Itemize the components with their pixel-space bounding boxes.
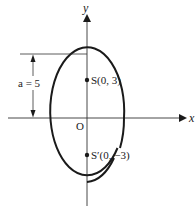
x-axis-label: x [188,111,195,125]
origin-label: O [76,120,84,132]
dimension-arrow-down-icon [31,110,36,118]
y-axis-arrow-icon [83,14,91,22]
semi-major-label: a = 5 [18,77,41,89]
y-axis-label: y [82,1,89,15]
dimension-arrow-up-icon [31,55,36,63]
focus-s-prime-point [85,153,89,157]
ellipse-diagram: x y O a = 5 S(0, 3) S′(0, −3) [0,0,196,208]
focus-s-point [85,78,89,82]
focus-s-prime-label: S′(0, −3) [91,149,130,162]
x-axis-arrow-icon [179,114,187,122]
focus-s-label: S(0, 3) [91,74,121,87]
